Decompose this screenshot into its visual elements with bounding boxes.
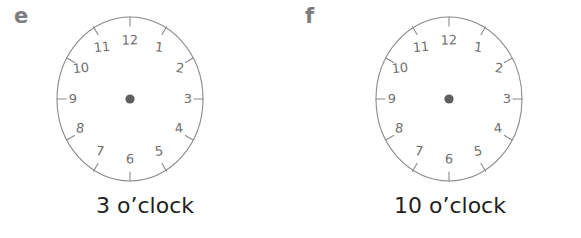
clock-numeral-3: 3 xyxy=(184,91,192,106)
clock-numeral-9: 9 xyxy=(69,91,77,106)
panel-letter-f: f xyxy=(305,6,314,27)
clock-numeral-11: 11 xyxy=(412,39,430,56)
clock-panel-f: f 12 xyxy=(291,0,581,238)
clock-numeral-10: 10 xyxy=(72,60,90,77)
clock-face-f[interactable]: 12 1 2 3 4 5 6 7 8 9 10 11 xyxy=(367,5,531,186)
clock-svg-e: 12 1 2 3 4 5 6 7 8 9 10 11 xyxy=(48,5,212,186)
clock-caption-f: 10 o’clock xyxy=(291,193,581,219)
clock-numeral-12: 12 xyxy=(440,32,457,48)
clock-numeral-11: 11 xyxy=(93,39,111,56)
clock-numeral-10: 10 xyxy=(391,60,409,77)
clock-numeral-7: 7 xyxy=(95,143,105,159)
clock-numeral-6: 6 xyxy=(126,151,135,166)
clock-numeral-6: 6 xyxy=(445,151,454,166)
clock-center-dot xyxy=(444,94,453,103)
clock-numeral-12: 12 xyxy=(121,32,138,48)
clock-numeral-4: 4 xyxy=(493,120,503,136)
clock-center-dot xyxy=(125,94,134,103)
clock-caption-e: 3 o’clock xyxy=(0,193,290,219)
clock-svg-f: 12 1 2 3 4 5 6 7 8 9 10 11 xyxy=(367,5,531,186)
clock-numeral-4: 4 xyxy=(174,120,184,136)
clock-numeral-9: 9 xyxy=(388,91,396,106)
clock-face-e[interactable]: 12 1 2 3 4 5 6 7 8 9 10 11 xyxy=(48,5,212,186)
clock-numeral-2: 2 xyxy=(494,60,504,76)
clock-panel-e: e xyxy=(0,0,290,238)
clock-numeral-2: 2 xyxy=(175,60,185,76)
clock-numeral-7: 7 xyxy=(414,143,424,159)
clock-numeral-3: 3 xyxy=(503,91,511,106)
worksheet: e xyxy=(0,0,581,238)
panel-letter-e: e xyxy=(14,6,28,27)
